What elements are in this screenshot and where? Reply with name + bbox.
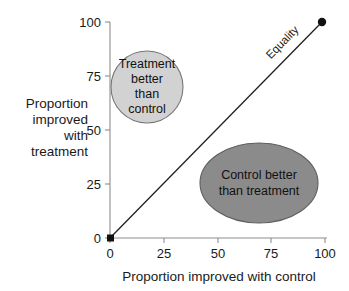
y-tick-marks [105,22,110,238]
y-axis-title-line-1: Proportion [26,96,88,111]
x-tick-label-0: 0 [106,246,113,261]
scatter-plot: 100 75 50 25 0 0 25 50 75 100 Proportion… [0,0,349,291]
chart-figure: 100 75 50 25 0 0 25 50 75 100 Proportion… [0,0,349,291]
y-axis-title: Proportion improved with treatment [26,96,89,159]
equality-endpoint-marker [318,18,326,26]
treatment-better-line-1: Treatment [119,57,176,71]
x-tick-label-25: 25 [157,246,171,261]
x-axis-title: Proportion improved with control [122,269,316,284]
y-tick-label-50: 50 [87,123,101,138]
control-better-ellipse [200,143,318,223]
y-axis-title-line-2: improved [32,112,88,127]
control-better-bubble: Control better than treatment [200,143,318,223]
treatment-better-line-3: than [135,87,159,101]
x-tick-label-100: 100 [314,246,336,261]
y-tick-label-25: 25 [87,177,101,192]
treatment-better-bubble: Treatment better than control [111,51,183,123]
control-better-line-2: than treatment [219,184,300,198]
treatment-better-line-4: control [128,102,166,116]
treatment-better-line-2: better [131,72,163,86]
x-tick-label-75: 75 [264,246,278,261]
x-tick-labels: 0 25 50 75 100 [106,246,335,261]
control-better-line-1: Control better [221,168,297,182]
equality-line-label: Equality [264,23,301,61]
y-axis-title-line-4: treatment [31,144,88,159]
equality-origin-marker [107,235,114,242]
y-tick-label-75: 75 [87,69,101,84]
x-tick-marks [110,238,325,243]
y-tick-label-0: 0 [94,231,101,246]
y-axis-title-line-3: with [63,128,88,143]
y-tick-label-100: 100 [79,15,101,30]
x-tick-label-50: 50 [211,246,225,261]
